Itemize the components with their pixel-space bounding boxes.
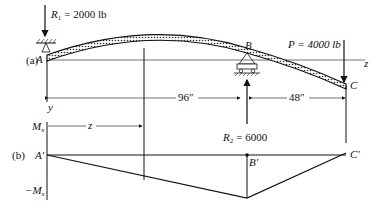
z-label-b: z [87,119,93,131]
r2-label: R2= 6000 [222,131,268,145]
beam-diagram: R1= 2000 lb z (a) A B C y R2= 6000 P = 4… [0,0,376,220]
point-c-prime-label: C′ [350,148,360,160]
roller-support-icon [234,53,260,76]
mx-negative-label: −Mx [25,184,46,198]
point-b-prime-label: B′ [249,156,259,168]
pin-support-icon [36,39,56,52]
dim-ab-label: 96″ [178,91,194,103]
z-axis-label: z [363,57,369,69]
point-b-label: B [245,39,252,51]
part-b-label: (b) [12,149,25,162]
dim-bc-label: 48″ [289,91,305,103]
moment-curve [47,153,346,198]
y-axis-label: y [47,101,53,113]
point-a-label: A [35,53,43,65]
point-a-prime-label: A′ [34,149,45,161]
point-c-label: C [350,79,358,91]
r1-label: R1= 2000 lb [50,8,107,22]
p-label: P = 4000 lb [287,38,341,50]
mx-positive-label: Mx [31,120,45,134]
